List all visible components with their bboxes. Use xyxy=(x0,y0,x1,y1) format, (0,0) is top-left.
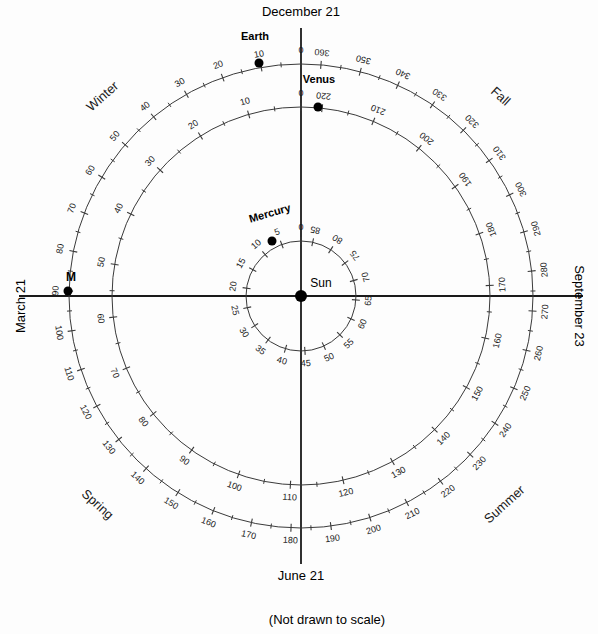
tick-earth-210 xyxy=(405,499,409,506)
body-dot-venus xyxy=(314,103,323,112)
tick-mercury-80 xyxy=(329,246,333,253)
tick-venus-60 xyxy=(109,317,117,318)
tick-label-earth-310: 310 xyxy=(491,144,508,162)
tick-venus-80 xyxy=(150,411,156,416)
tick-earth-35 xyxy=(168,103,171,107)
tick-venus-105 xyxy=(264,479,265,484)
tick-earth-15 xyxy=(241,69,242,74)
tick-label-mercury-70: 70 xyxy=(359,271,371,283)
figure-caption: (Not drawn to scale) xyxy=(269,612,385,627)
season-label-fall: Fall xyxy=(488,84,514,109)
tick-earth-100 xyxy=(68,330,76,331)
tick-venus-215 xyxy=(348,111,349,116)
tick-mercury-15 xyxy=(249,268,256,272)
tick-label-mercury-15: 15 xyxy=(234,256,248,270)
sun-dot xyxy=(295,290,307,302)
tick-label-venus-220: 220 xyxy=(316,90,332,102)
tick-earth-165 xyxy=(231,515,232,520)
tick-venus-5 xyxy=(274,106,275,111)
tick-label-venus-0: 0 xyxy=(298,88,303,98)
sun-label: Sun xyxy=(310,276,331,290)
tick-label-venus-70: 70 xyxy=(108,367,121,380)
tick-label-venus-50: 50 xyxy=(95,256,107,268)
tick-earth-30 xyxy=(184,91,188,98)
tick-earth-60 xyxy=(98,175,105,179)
tick-label-earth-100: 100 xyxy=(53,324,65,340)
tick-label-venus-120: 120 xyxy=(337,486,354,499)
tick-earth-105 xyxy=(73,350,78,351)
tick-label-venus-80: 80 xyxy=(137,415,151,429)
tick-label-earth-0: 0 xyxy=(298,45,303,55)
tick-label-mercury-80: 80 xyxy=(331,232,345,246)
tick-label-venus-110: 110 xyxy=(282,492,297,503)
tick-venus-130 xyxy=(390,458,394,465)
tick-label-earth-140: 140 xyxy=(129,469,147,486)
tick-venus-65 xyxy=(116,343,121,344)
date-label-september-23: September 23 xyxy=(572,265,587,347)
tick-label-mercury-30: 30 xyxy=(237,326,251,340)
tick-label-earth-120: 120 xyxy=(78,403,94,421)
tick-label-venus-190: 190 xyxy=(457,170,474,188)
tick-venus-90 xyxy=(189,447,194,454)
season-label-winter: Winter xyxy=(83,78,121,115)
tick-label-earth-70: 70 xyxy=(65,202,78,215)
tick-label-venus-30: 30 xyxy=(143,154,157,168)
tick-label-mercury-5: 5 xyxy=(273,226,281,237)
tick-earth-310 xyxy=(486,158,492,163)
tick-label-venus-130: 130 xyxy=(389,464,407,480)
tick-mercury-30 xyxy=(251,324,258,328)
planet-name-venus: Venus xyxy=(303,73,335,85)
season-label-summer: Summer xyxy=(481,482,528,526)
tick-label-venus-100: 100 xyxy=(226,479,243,493)
tick-label-earth-110: 110 xyxy=(62,365,76,382)
tick-earth-125 xyxy=(105,422,109,425)
tick-label-mercury-10: 10 xyxy=(249,237,263,251)
tick-label-earth-260: 260 xyxy=(532,345,545,362)
tick-earth-265 xyxy=(528,330,533,331)
tick-venus-20 xyxy=(198,133,202,140)
tick-label-venus-150: 150 xyxy=(469,384,485,402)
planet-name-earth: Earth xyxy=(241,30,269,42)
tick-label-venus-170: 170 xyxy=(497,277,508,293)
tick-label-mercury-85: 85 xyxy=(309,224,321,236)
marker-label-m: M xyxy=(66,270,76,284)
tick-label-earth-20: 20 xyxy=(212,58,225,71)
body-dot-mercury xyxy=(268,237,277,246)
tick-earth-55 xyxy=(111,159,115,162)
tick-label-earth-90: 90 xyxy=(50,286,60,296)
tick-label-venus-180: 180 xyxy=(484,221,498,238)
tick-label-venus-20: 20 xyxy=(186,118,200,132)
tick-label-mercury-50: 50 xyxy=(322,351,335,364)
tick-label-mercury-65: 65 xyxy=(363,295,374,306)
tick-earth-40 xyxy=(151,114,156,120)
tick-venus-175 xyxy=(484,259,489,260)
tick-earth-330 xyxy=(430,102,435,109)
tick-label-mercury-35: 35 xyxy=(254,343,268,357)
tick-label-earth-80: 80 xyxy=(54,243,66,255)
tick-label-earth-340: 340 xyxy=(394,66,412,81)
tick-label-earth-150: 150 xyxy=(162,495,180,511)
tick-label-earth-250: 250 xyxy=(518,384,533,402)
tick-label-earth-40: 40 xyxy=(138,99,152,113)
date-label-december-21: December 21 xyxy=(262,4,340,19)
tick-label-venus-60: 60 xyxy=(95,313,106,324)
tick-label-earth-240: 240 xyxy=(497,421,514,439)
tick-label-mercury-25: 25 xyxy=(229,304,241,316)
tick-label-earth-280: 280 xyxy=(538,262,550,278)
tick-label-earth-300: 300 xyxy=(513,180,529,198)
tick-label-venus-200: 200 xyxy=(418,130,436,147)
tick-earth-285 xyxy=(526,251,531,252)
tick-earth-360 xyxy=(321,61,322,69)
tick-label-earth-270: 270 xyxy=(539,304,550,320)
tick-label-mercury-40: 40 xyxy=(276,354,288,366)
tick-label-earth-10: 10 xyxy=(253,48,265,60)
tick-earth-120 xyxy=(93,404,100,408)
season-label-spring: Spring xyxy=(79,486,117,522)
tick-venus-35 xyxy=(142,190,146,193)
tick-earth-270 xyxy=(529,311,537,312)
tick-label-earth-170: 170 xyxy=(240,528,257,541)
tick-label-venus-90: 90 xyxy=(177,453,191,467)
tick-label-earth-130: 130 xyxy=(100,438,117,456)
tick-earth-220 xyxy=(438,478,443,484)
orbit-diagram-svg: 0102030405060708090100110120130140150160… xyxy=(0,0,598,634)
